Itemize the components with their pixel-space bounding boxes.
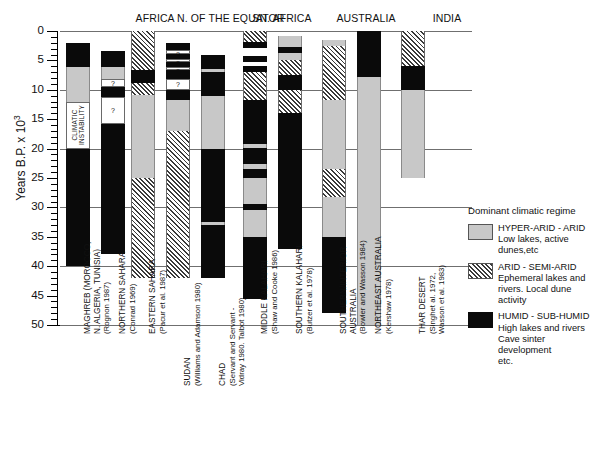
y-minor-tick <box>51 37 57 38</box>
legend-rows: HYPER-ARID - ARIDLow lakes, activedunes,… <box>468 223 594 367</box>
y-minor-tick <box>51 154 57 155</box>
y-tick-40 <box>47 266 57 267</box>
bar-segment-instability: ? <box>101 79 125 88</box>
uncertainty-marker: ? <box>167 81 189 88</box>
y-tick-30 <box>47 207 57 208</box>
y-minor-tick <box>51 254 57 255</box>
bar-segment-humid <box>278 113 302 248</box>
legend-swatch-gray <box>468 224 493 240</box>
legend-text-line: HUMID - SUB-HUMID <box>498 311 594 322</box>
bar-column <box>401 31 425 178</box>
region-header-sn-africa: SN. AFRICA <box>236 12 328 24</box>
bar-column <box>278 36 302 249</box>
bar-segment-arid <box>243 72 267 100</box>
y-minor-tick <box>51 313 57 314</box>
y-axis-line <box>57 31 58 325</box>
legend-text-line: HYPER-ARID - ARID <box>498 223 585 234</box>
y-tick-15 <box>47 119 57 120</box>
bar-segment-hyper-arid <box>201 96 225 148</box>
legend-text-line: Cave sinter development <box>498 334 594 356</box>
y-tick-0 <box>47 31 57 32</box>
y-minor-tick <box>51 278 57 279</box>
bar-segment-instability: ? <box>166 79 190 90</box>
legend-swatch-black <box>468 312 493 328</box>
bar-segment-hyper-arid <box>322 197 346 238</box>
bar-segment-humid <box>243 56 267 62</box>
column-label-line: SUDAN <box>183 282 193 386</box>
column-label: SUDAN(Williams and Adamson 1980) <box>183 282 202 386</box>
y-minor-tick <box>51 113 57 114</box>
bar-segment-hyper-arid <box>243 178 267 204</box>
y-minor-tick <box>51 184 57 185</box>
bar-segment-hyper-arid <box>131 95 155 178</box>
bar-segment-humid <box>357 31 381 77</box>
column-label: CHAD(Servant and Servant -Vidray 1980. T… <box>218 297 247 386</box>
column-label-line: SOUTHERN KALAHARI <box>295 245 305 334</box>
y-minor-tick <box>51 84 57 85</box>
column-label: SOUTHERN KALAHARI(Butzer et al. 1978) <box>295 245 314 334</box>
bar-segment-humid <box>243 169 267 178</box>
y-tick-label-15: 15 <box>14 112 44 124</box>
y-tick-label-45: 45 <box>14 289 44 301</box>
bar-segment-arid <box>166 131 190 278</box>
bar-segment-humid <box>131 70 155 83</box>
y-tick-label-10: 10 <box>14 83 44 95</box>
uncertainty-marker: ? <box>102 80 124 87</box>
bar-segment-arid <box>131 83 155 95</box>
y-minor-tick <box>51 49 57 50</box>
y-minor-tick <box>51 166 57 167</box>
column-label: NORTHERN SAHARA(Conrad 1969) <box>118 252 137 334</box>
legend-item: HUMID - SUB-HUMIDHigh lakes and riversCa… <box>468 311 594 367</box>
y-minor-tick <box>51 131 57 132</box>
legend-text-line: rivers. Local dune activity <box>498 284 594 306</box>
legend: Dominant climatic regime HYPER-ARID - AR… <box>468 205 594 372</box>
y-minor-tick <box>51 231 57 232</box>
y-tick-5 <box>47 60 57 61</box>
column-label-line: (Bowler and Wasson 1984) <box>358 240 368 334</box>
climate-regime-chart: AFRICA N. OF THE EQUATOR SN. AFRICA AUST… <box>0 0 596 467</box>
bar-segment-humid <box>101 124 125 255</box>
legend-text: ARID - SEMI-ARIDEphemeral lakes andriver… <box>498 262 594 307</box>
legend-swatch-hatch <box>468 263 493 279</box>
bar-segment-hyper-arid <box>278 53 302 60</box>
y-tick-label-30: 30 <box>14 200 44 212</box>
y-minor-tick <box>51 213 57 214</box>
column-label-line: (Pacur et al. 1987) <box>158 259 168 334</box>
bar-segment-humid <box>243 42 267 48</box>
y-minor-tick <box>51 43 57 44</box>
bar-segment-hyper-arid <box>243 210 267 236</box>
bar-segment-humid <box>201 72 225 96</box>
legend-text: HYPER-ARID - ARIDLow lakes, activedunes,… <box>498 223 585 257</box>
y-minor-tick <box>51 55 57 56</box>
column-label-line: (Servant and Servant - <box>228 297 238 386</box>
y-tick-label-0: 0 <box>14 24 44 36</box>
y-minor-tick <box>51 137 57 138</box>
legend-text-line: dunes,etc <box>498 245 585 256</box>
bar-segment-arid <box>278 90 302 114</box>
bar-segment-arid <box>322 46 346 101</box>
uncertainty-marker: ? <box>102 107 124 114</box>
legend-text-line: Low lakes, active <box>498 234 585 245</box>
segment-label: CLIMATICINSTABILITY <box>71 105 86 145</box>
y-minor-tick <box>51 243 57 244</box>
y-tick-25 <box>47 178 57 179</box>
column-label-line: EASTERN SAHARA <box>148 259 158 334</box>
bar-segment-humid <box>166 70 190 79</box>
column-label-line: THAR DESERT <box>418 265 428 334</box>
bar-column: CLIMATICINSTABILITY <box>66 43 90 266</box>
bar-segment-hyper-arid <box>322 100 346 169</box>
bar-segment-arid <box>243 31 267 42</box>
bar-segment-hyper-arid <box>101 67 125 79</box>
column-label-line: (Conrad 1969) <box>128 252 138 334</box>
bar-column: ?? <box>101 51 125 254</box>
bar-segment-instability: ? <box>101 97 125 124</box>
bar-segment-arid <box>401 31 425 66</box>
column-label-line: (Shaw and Cooke 1986) <box>270 250 280 334</box>
y-tick-45 <box>47 296 57 297</box>
y-minor-tick <box>51 66 57 67</box>
column-label-line: (Williams and Adamson 1980) <box>193 282 203 386</box>
bar-column <box>131 31 155 278</box>
y-minor-tick <box>51 307 57 308</box>
column-label-line: N. ALGERIA, TUNISIA) <box>93 242 103 334</box>
y-minor-tick <box>51 260 57 261</box>
